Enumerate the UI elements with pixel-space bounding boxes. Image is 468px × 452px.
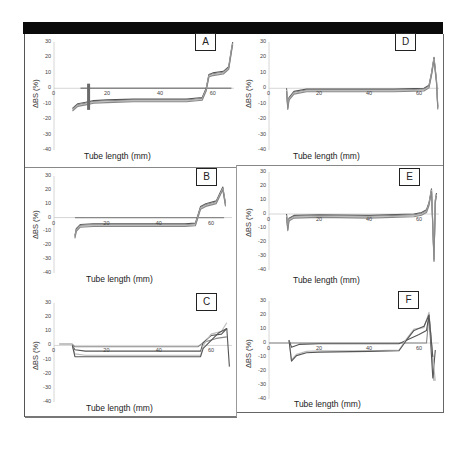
y-tick-label: 20 xyxy=(37,53,51,59)
y-axis-label: ΔBS (%) xyxy=(244,208,253,237)
data-series-line xyxy=(287,192,437,262)
y-tick-label: 10 xyxy=(37,200,51,206)
x-tick-label: 20 xyxy=(316,345,322,351)
plot-area xyxy=(237,34,443,165)
y-axis-label: ΔBS (%) xyxy=(244,79,253,108)
y-tick-label: -20 xyxy=(252,367,266,373)
marker-bar xyxy=(87,84,90,110)
x-tick-label: 20 xyxy=(104,90,110,96)
x-tick-label: 20 xyxy=(103,220,109,226)
panel-e: 3020100-10-20-30-400204060ΔBS (%)Tube le… xyxy=(237,165,443,290)
data-series-line xyxy=(75,187,226,236)
y-tick-label: 20 xyxy=(252,311,266,317)
y-tick-label: 20 xyxy=(37,313,51,319)
x-tick-label: 40 xyxy=(366,90,372,96)
y-tick-label: 30 xyxy=(252,168,266,174)
y-tick-label: 30 xyxy=(252,38,266,44)
y-tick-label: 20 xyxy=(252,182,266,188)
x-tick-label: 0 xyxy=(52,220,55,226)
y-tick-label: -40 xyxy=(37,269,51,275)
x-tick-label: 60 xyxy=(208,347,214,353)
x-axis-label: Tube length (mm) xyxy=(86,274,153,284)
y-tick-label: -10 xyxy=(252,100,266,106)
x-tick-label: 40 xyxy=(156,220,162,226)
y-tick-label: -40 xyxy=(37,398,51,404)
x-tick-label: 0 xyxy=(267,345,270,351)
x-tick-label: 20 xyxy=(103,347,109,353)
data-series-line xyxy=(287,59,438,108)
panel-label-e: E xyxy=(399,168,420,186)
y-tick-label: 10 xyxy=(37,69,51,75)
panel-label-b: B xyxy=(196,168,217,186)
y-axis-label: ΔBS (%) xyxy=(31,79,40,108)
panel-label-a: A xyxy=(195,33,216,51)
y-tick-label: -30 xyxy=(37,384,51,390)
x-axis-label: Tube length (mm) xyxy=(293,275,360,285)
y-tick-label: 0 xyxy=(252,84,266,90)
plot-area xyxy=(24,34,236,167)
y-tick-label: 10 xyxy=(252,69,266,75)
data-series-line xyxy=(287,189,437,259)
y-tick-label: 20 xyxy=(37,186,51,192)
y-tick-label: 30 xyxy=(252,297,266,303)
y-tick-label: -40 xyxy=(252,146,266,152)
y-tick-label: -20 xyxy=(37,241,51,247)
y-tick-label: -40 xyxy=(252,266,266,272)
y-axis-label: ΔBS (%) xyxy=(31,341,40,370)
x-tick-label: 40 xyxy=(156,347,162,353)
panel-label-f: F xyxy=(398,291,419,309)
y-tick-label: -10 xyxy=(252,353,266,359)
panel-a: 3020100-10-20-30-400204060ΔBS (%)Tube le… xyxy=(24,34,236,167)
data-series-line xyxy=(287,60,438,109)
y-tick-label: -10 xyxy=(252,224,266,230)
y-tick-label: 20 xyxy=(252,53,266,59)
panel-c: 3020100-10-20-30-400204060ΔBS (%)Tube le… xyxy=(24,290,236,417)
y-axis-label: ΔBS (%) xyxy=(31,210,40,239)
x-tick-label: 60 xyxy=(208,220,214,226)
data-series-line xyxy=(72,323,227,356)
x-axis-label: Tube length (mm) xyxy=(293,151,360,161)
y-tick-label: -20 xyxy=(37,370,51,376)
x-axis-label: Tube length (mm) xyxy=(84,151,151,161)
x-tick-label: 60 xyxy=(416,90,422,96)
x-tick-label: 40 xyxy=(366,345,372,351)
x-axis-label: Tube length (mm) xyxy=(86,403,153,413)
figure-top-bar xyxy=(23,22,443,34)
data-series-line xyxy=(287,191,437,261)
x-tick-label: 60 xyxy=(416,216,422,222)
y-tick-label: -30 xyxy=(252,381,266,387)
frame-border-right xyxy=(443,34,444,412)
panel-label-c: C xyxy=(196,293,217,311)
y-tick-label: -40 xyxy=(37,146,51,152)
x-tick-label: 20 xyxy=(316,216,322,222)
y-tick-label: 30 xyxy=(37,299,51,305)
figure: 3020100-10-20-30-400204060ΔBS (%)Tube le… xyxy=(0,0,468,452)
x-tick-label: 40 xyxy=(366,216,372,222)
y-tick-label: -20 xyxy=(252,238,266,244)
data-series-line xyxy=(287,58,438,107)
x-tick-label: 0 xyxy=(52,347,55,353)
data-series-line xyxy=(287,57,438,106)
y-tick-label: 0 xyxy=(252,339,266,345)
y-tick-label: -20 xyxy=(37,115,51,121)
x-tick-label: 60 xyxy=(416,345,422,351)
y-tick-label: -30 xyxy=(37,255,51,261)
data-series-line xyxy=(75,189,226,238)
y-axis-label: ΔBS (%) xyxy=(244,339,253,368)
data-series-line xyxy=(289,315,435,378)
x-tick-label: 60 xyxy=(210,90,216,96)
y-tick-label: -30 xyxy=(252,131,266,137)
data-series-line xyxy=(287,190,437,260)
y-tick-label: -30 xyxy=(252,252,266,258)
panel-label-d: D xyxy=(395,33,416,51)
x-tick-label: 0 xyxy=(267,216,270,222)
data-series-line xyxy=(289,312,435,381)
data-series-line xyxy=(75,190,226,239)
x-axis-label: Tube length (mm) xyxy=(294,399,361,409)
x-tick-label: 20 xyxy=(316,90,322,96)
x-tick-label: 40 xyxy=(157,90,163,96)
data-series-line xyxy=(75,188,226,237)
y-tick-label: -40 xyxy=(252,395,266,401)
panel-f: 3020100-10-20-30-400204060ΔBS (%)Tube le… xyxy=(237,288,443,413)
y-tick-label: 30 xyxy=(37,38,51,44)
